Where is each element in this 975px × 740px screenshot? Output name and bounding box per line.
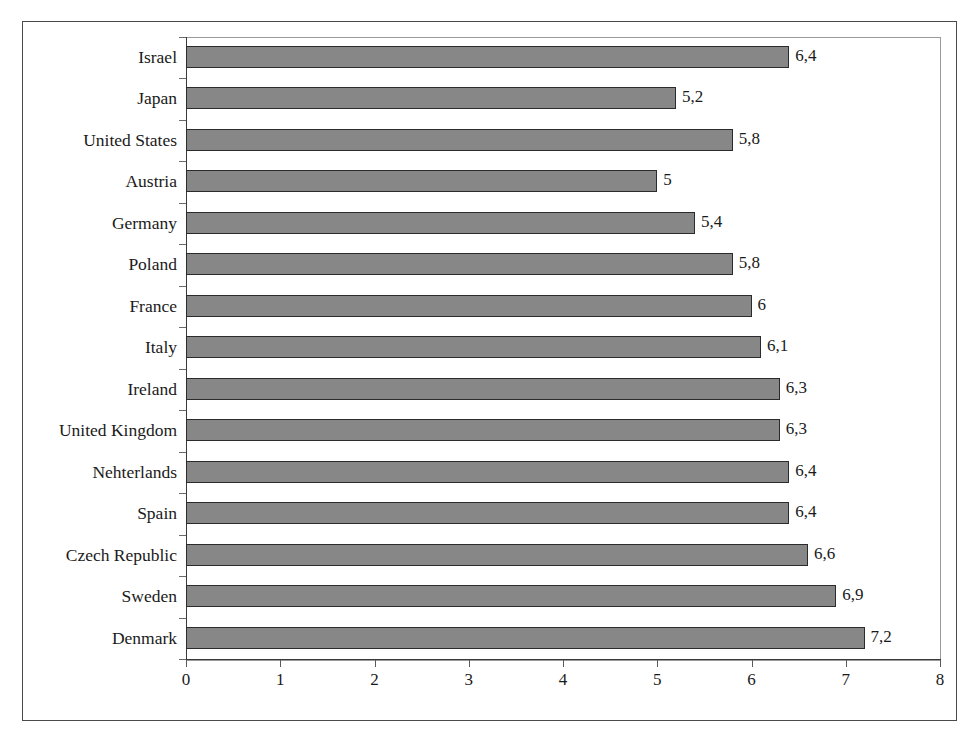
category-label: Japan — [26, 78, 186, 120]
category-label: United States — [26, 120, 186, 162]
category-tick — [179, 410, 186, 411]
value-axis-tick — [186, 660, 187, 667]
bar-row: 6,6 — [186, 535, 966, 577]
bar-row: 6,3 — [186, 410, 966, 452]
category-tick — [179, 493, 186, 494]
bar-row: 6,4 — [186, 37, 966, 79]
bar-row: 6,1 — [186, 327, 966, 369]
value-axis-tick-label: 8 — [920, 670, 960, 690]
bar-row: 6,3 — [186, 369, 966, 411]
category-tick — [179, 286, 186, 287]
category-tick — [179, 244, 186, 245]
category-tick — [179, 161, 186, 162]
category-label: Sweden — [26, 576, 186, 618]
bar[interactable] — [186, 378, 780, 400]
value-axis-tick — [280, 660, 281, 667]
bar-value-label: 5,4 — [701, 211, 722, 233]
category-tick — [179, 369, 186, 370]
value-axis-tick — [563, 660, 564, 667]
category-label: Italy — [26, 327, 186, 369]
category-tick — [179, 618, 186, 619]
bar[interactable] — [186, 585, 836, 607]
bar[interactable] — [186, 129, 733, 151]
category-label: Denmark — [26, 618, 186, 660]
category-label: Germany — [26, 203, 186, 245]
bar-value-label: 6,1 — [767, 335, 788, 357]
bar-value-label: 6,6 — [814, 543, 835, 565]
value-axis-tick — [940, 660, 941, 667]
bar-value-label: 6,4 — [795, 460, 816, 482]
bar[interactable] — [186, 544, 808, 566]
value-axis-tick-label: 6 — [732, 670, 772, 690]
bar-value-label: 5,8 — [739, 252, 760, 274]
value-axis-tick — [469, 660, 470, 667]
category-axis-labels: IsraelJapanUnited StatesAustriaGermanyPo… — [23, 37, 186, 659]
category-tick — [179, 78, 186, 79]
bar[interactable] — [186, 419, 780, 441]
category-tick — [179, 203, 186, 204]
bar-value-label: 6 — [758, 294, 767, 316]
bar-value-label: 6,4 — [795, 45, 816, 67]
category-label: Ireland — [26, 369, 186, 411]
bar[interactable] — [186, 627, 865, 649]
value-axis-tick — [657, 660, 658, 667]
value-axis-tick — [846, 660, 847, 667]
value-axis-tick-label: 0 — [166, 670, 206, 690]
bar[interactable] — [186, 46, 789, 68]
category-label: Austria — [26, 161, 186, 203]
value-axis-tick-label: 5 — [637, 670, 677, 690]
category-label: United Kingdom — [26, 410, 186, 452]
category-tick — [179, 535, 186, 536]
bar-row: 5 — [186, 161, 966, 203]
value-axis-tick — [375, 660, 376, 667]
category-tick — [179, 659, 186, 660]
value-axis-tick-label: 7 — [826, 670, 866, 690]
category-label: Czech Republic — [26, 535, 186, 577]
bar-row: 6,4 — [186, 493, 966, 535]
category-tick — [179, 37, 186, 38]
category-label: Israel — [26, 37, 186, 79]
bar-value-label: 5 — [663, 169, 672, 191]
category-label: Poland — [26, 244, 186, 286]
bar-value-label: 5,2 — [682, 86, 703, 108]
bar-value-label: 6,3 — [786, 418, 807, 440]
bar-row: 7,2 — [186, 618, 966, 660]
value-axis-tick-label: 2 — [355, 670, 395, 690]
bar[interactable] — [186, 212, 695, 234]
bar-row: 6 — [186, 286, 966, 328]
category-tick — [179, 120, 186, 121]
value-axis-tick-label: 1 — [260, 670, 300, 690]
value-axis-tick-label: 4 — [543, 670, 583, 690]
category-label: France — [26, 286, 186, 328]
bar-value-label: 5,8 — [739, 128, 760, 150]
value-axis-tick — [752, 660, 753, 667]
bar[interactable] — [186, 502, 789, 524]
bar[interactable] — [186, 87, 676, 109]
bar-row: 6,9 — [186, 576, 966, 618]
bar-value-label: 7,2 — [871, 626, 892, 648]
bar-value-label: 6,3 — [786, 377, 807, 399]
chart-frame: IsraelJapanUnited StatesAustriaGermanyPo… — [22, 21, 957, 721]
bar-row: 5,4 — [186, 203, 966, 245]
bar[interactable] — [186, 253, 733, 275]
bar-row: 5,2 — [186, 78, 966, 120]
bar[interactable] — [186, 336, 761, 358]
category-label: Spain — [26, 493, 186, 535]
bar-row: 5,8 — [186, 244, 966, 286]
bar[interactable] — [186, 461, 789, 483]
bar-value-label: 6,4 — [795, 501, 816, 523]
bar-value-label: 6,9 — [842, 584, 863, 606]
category-tick — [179, 452, 186, 453]
bar-row: 5,8 — [186, 120, 966, 162]
bar[interactable] — [186, 295, 752, 317]
category-label: Nehterlands — [26, 452, 186, 494]
bar[interactable] — [186, 170, 657, 192]
category-tick — [179, 327, 186, 328]
category-tick — [179, 576, 186, 577]
bar-row: 6,4 — [186, 452, 966, 494]
value-axis-tick-label: 3 — [449, 670, 489, 690]
